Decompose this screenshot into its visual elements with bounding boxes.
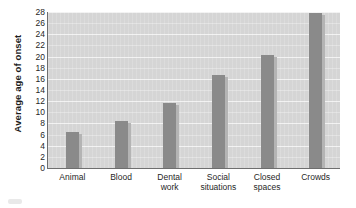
bar-fill	[163, 103, 176, 168]
gridline	[48, 157, 340, 158]
y-tick-label: 28	[4, 8, 48, 16]
bar	[163, 103, 176, 168]
x-tick-label-line: Crowds	[291, 172, 340, 182]
gridline	[48, 146, 340, 147]
y-tick-label: 6	[4, 131, 48, 139]
bar-fill	[309, 13, 322, 168]
x-tick-label-line: work	[145, 182, 194, 192]
bar	[309, 13, 322, 168]
x-tick-label: Animal	[48, 172, 97, 182]
x-tick-label: Blood	[97, 172, 146, 182]
bar-fill	[212, 75, 225, 168]
x-tick-label-line: Social	[194, 172, 243, 182]
x-tick-label: Dentalwork	[145, 172, 194, 192]
gridline	[48, 34, 340, 35]
bar	[115, 121, 128, 168]
bar-fill	[261, 55, 274, 168]
x-tick-label-line: Closed	[243, 172, 292, 182]
y-tick-label: 4	[4, 142, 48, 150]
y-tick-label: 18	[4, 64, 48, 72]
y-tick-label: 8	[4, 119, 48, 127]
gridline	[48, 112, 340, 113]
y-tick-label: 20	[4, 53, 48, 61]
bar-fill	[66, 132, 79, 168]
y-tick-label: 26	[4, 19, 48, 27]
x-tick-label: Socialsituations	[194, 172, 243, 192]
x-tick-label-line: Dental	[145, 172, 194, 182]
y-tick-label: 16	[4, 75, 48, 83]
y-tick-label: 12	[4, 97, 48, 105]
y-tick-label: 0	[4, 164, 48, 172]
plot-area	[48, 12, 340, 168]
gridline	[48, 68, 340, 69]
gridline	[48, 23, 340, 24]
y-tick-label: 22	[4, 41, 48, 49]
x-tick-label-line: Blood	[97, 172, 146, 182]
x-tick-label-line: spaces	[243, 182, 292, 192]
x-tick-label: Crowds	[291, 172, 340, 182]
gridline	[48, 57, 340, 58]
bar-chart-figure: Average age of onset 0246810121416182022…	[0, 0, 356, 208]
gridline	[48, 45, 340, 46]
gridline	[48, 90, 340, 91]
bar	[66, 132, 79, 168]
y-axis-tick-labels: 0246810121416182022242628	[0, 0, 48, 208]
gridline	[48, 101, 340, 102]
x-axis-line	[48, 168, 340, 169]
y-axis-line	[47, 12, 48, 169]
y-tick-label: 2	[4, 153, 48, 161]
bar	[212, 75, 225, 168]
y-tick-label: 10	[4, 108, 48, 116]
gridline	[48, 135, 340, 136]
x-tick-label-line: situations	[194, 182, 243, 192]
gridline	[48, 12, 340, 13]
bar	[261, 55, 274, 168]
scan-artifact-mark	[8, 199, 22, 204]
y-tick-label: 24	[4, 30, 48, 38]
x-tick-label: Closedspaces	[243, 172, 292, 192]
y-tick-label: 14	[4, 86, 48, 94]
bar-fill	[115, 121, 128, 168]
gridline	[48, 79, 340, 80]
x-tick-label-line: Animal	[48, 172, 97, 182]
gridline	[48, 123, 340, 124]
